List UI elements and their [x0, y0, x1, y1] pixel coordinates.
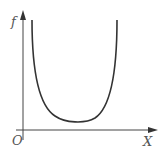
curve-f — [32, 20, 117, 122]
y-axis-label: f — [11, 14, 16, 29]
x-axis-arrow-icon — [148, 127, 158, 133]
x-axis-label: X — [143, 134, 152, 149]
origin-label: O — [12, 133, 23, 148]
y-axis-arrow-icon — [20, 10, 26, 20]
